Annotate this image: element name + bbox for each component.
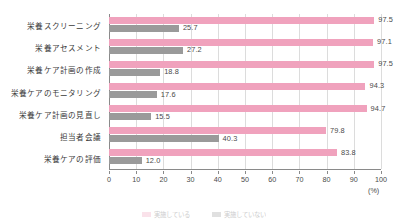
legend-item: 実施していない	[212, 210, 266, 219]
legend-swatch	[212, 212, 221, 217]
x-axis-unit-label: (%)	[368, 186, 379, 195]
bar-value-secondary: 12.0	[146, 156, 161, 165]
x-tick-label: 30	[187, 175, 195, 184]
bar-primary	[109, 39, 373, 46]
bar-secondary	[109, 135, 219, 142]
bar-secondary	[109, 113, 151, 120]
chart-legend: 実施している実施していない	[0, 210, 408, 219]
bar-value-secondary: 25.7	[183, 23, 198, 32]
bar-secondary	[109, 25, 179, 32]
x-tick	[381, 171, 382, 174]
bar-value-primary: 94.7	[371, 104, 386, 113]
x-tick	[163, 171, 164, 174]
bar-value-primary: 97.5	[378, 59, 393, 68]
bar-value-primary: 97.1	[377, 37, 392, 46]
bar-value-secondary: 27.2	[187, 45, 202, 54]
x-tick-label: 10	[132, 175, 140, 184]
x-tick-label: 80	[323, 175, 331, 184]
bar-value-primary: 79.8	[330, 126, 345, 135]
bar-primary	[109, 127, 326, 134]
x-tick-label: 50	[241, 175, 249, 184]
plot-area: 97.525.797.127.297.518.894.317.694.715.5…	[109, 14, 381, 169]
category-label: 栄養ケア計画の見直し	[19, 109, 101, 120]
legend-label: 実施していない	[224, 210, 266, 219]
bar-primary	[109, 105, 367, 112]
bar-row: 97.127.2	[109, 36, 381, 58]
category-label: 栄養ケア計画の作成	[27, 64, 101, 75]
bar-rows: 97.525.797.127.297.518.894.317.694.715.5…	[109, 14, 381, 169]
bar-row: 94.317.6	[109, 80, 381, 102]
x-tick	[327, 171, 328, 174]
x-tick	[109, 171, 110, 174]
x-tick	[272, 171, 273, 174]
bar-row: 83.812.0	[109, 147, 381, 169]
bar-secondary	[109, 69, 160, 76]
x-tick-label: 100	[375, 175, 387, 184]
bar-primary	[109, 83, 365, 90]
x-tick-label: 0	[107, 175, 111, 184]
x-tick-label: 40	[214, 175, 222, 184]
x-tick	[245, 171, 246, 174]
bar-secondary	[109, 47, 183, 54]
bar-row: 97.525.7	[109, 14, 381, 36]
category-label: 栄養アセスメント	[35, 42, 101, 53]
x-axis-line	[109, 169, 381, 170]
category-axis-labels: 栄養スクリーニング栄養アセスメント栄養ケア計画の作成栄養ケアのモニタリング栄養ケ…	[0, 14, 105, 169]
x-tick	[299, 171, 300, 174]
bar-secondary	[109, 157, 142, 164]
legend-swatch	[142, 212, 151, 217]
x-tick-label: 90	[350, 175, 358, 184]
bar-value-primary: 97.5	[378, 15, 393, 24]
x-axis-ticks: 0102030405060708090100	[109, 171, 381, 183]
x-tick-label: 70	[295, 175, 303, 184]
x-tick-label: 60	[268, 175, 276, 184]
bar-primary	[109, 17, 374, 24]
x-tick	[354, 171, 355, 174]
bar-row: 94.715.5	[109, 103, 381, 125]
category-label: 栄養ケアのモニタリング	[11, 87, 101, 98]
bar-value-secondary: 18.8	[164, 67, 179, 76]
bar-value-secondary: 15.5	[155, 112, 170, 121]
bar-secondary	[109, 91, 157, 98]
bar-row: 97.518.8	[109, 58, 381, 80]
legend-item: 実施している	[142, 210, 190, 219]
category-label: 担当者会議	[60, 131, 101, 142]
category-label: 栄養スクリーニング	[27, 20, 101, 31]
legend-label: 実施している	[154, 210, 190, 219]
x-tick	[218, 171, 219, 174]
category-label: 栄養ケアの評価	[44, 153, 101, 164]
bar-primary	[109, 149, 337, 156]
bar-chart: 栄養スクリーニング栄養アセスメント栄養ケア計画の作成栄養ケアのモニタリング栄養ケ…	[0, 0, 408, 219]
x-tick	[136, 171, 137, 174]
x-tick	[191, 171, 192, 174]
bar-row: 79.840.3	[109, 125, 381, 147]
bar-value-secondary: 17.6	[161, 90, 176, 99]
bar-value-primary: 83.8	[341, 148, 356, 157]
x-tick-label: 20	[159, 175, 167, 184]
bar-value-primary: 94.3	[369, 81, 384, 90]
bar-value-secondary: 40.3	[223, 134, 238, 143]
bar-primary	[109, 61, 374, 68]
